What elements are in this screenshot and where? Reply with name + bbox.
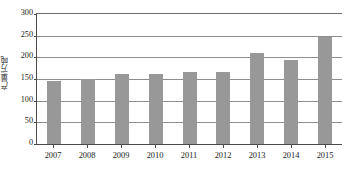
x-tick-slot bbox=[104, 145, 138, 149]
x-axis-tick-labels: 200720082009201020112012201320142015 bbox=[36, 150, 342, 164]
x-tick-label: 2011 bbox=[172, 150, 206, 164]
bar-chart-figure: 产量/万吨 050100150200250300 200720082009201… bbox=[0, 0, 348, 176]
x-tick-slot bbox=[308, 145, 342, 149]
x-tick-slot bbox=[138, 145, 172, 149]
x-tick-mark bbox=[189, 145, 190, 148]
bar-slot bbox=[139, 14, 173, 144]
x-tick-mark bbox=[291, 145, 292, 148]
x-tick-slot bbox=[172, 145, 206, 149]
bar-slot bbox=[308, 14, 342, 144]
x-tick-mark bbox=[121, 145, 122, 148]
bar-series bbox=[37, 14, 342, 144]
x-tick-label: 2013 bbox=[240, 150, 274, 164]
x-tick-mark bbox=[325, 145, 326, 148]
x-tick-slot bbox=[274, 145, 308, 149]
bar-slot bbox=[206, 14, 240, 144]
y-tick-label: 300 bbox=[21, 9, 33, 17]
bar bbox=[115, 74, 129, 144]
bar bbox=[47, 81, 61, 144]
x-tick-label: 2009 bbox=[104, 150, 138, 164]
bar-slot bbox=[173, 14, 207, 144]
y-tick-label: 250 bbox=[21, 31, 33, 39]
y-axis-tick-labels: 050100150200250300 bbox=[10, 0, 33, 176]
x-tick-mark bbox=[53, 145, 54, 148]
x-tick-mark bbox=[155, 145, 156, 148]
bar bbox=[216, 72, 230, 144]
plot-area bbox=[36, 13, 342, 145]
bar bbox=[318, 37, 332, 144]
bar-slot bbox=[240, 14, 274, 144]
x-tick-mark bbox=[87, 145, 88, 148]
bar-slot bbox=[37, 14, 71, 144]
x-tick-slot bbox=[36, 145, 70, 149]
bar bbox=[81, 79, 95, 144]
y-tick-label: 0 bbox=[29, 139, 33, 147]
x-tick-label: 2007 bbox=[36, 150, 70, 164]
x-tick-mark bbox=[223, 145, 224, 148]
bar-slot bbox=[274, 14, 308, 144]
y-tick-label: 150 bbox=[21, 74, 33, 82]
y-tick-label: 50 bbox=[25, 117, 33, 125]
x-tick-label: 2015 bbox=[308, 150, 342, 164]
x-tick-slot bbox=[70, 145, 104, 149]
x-axis-tick-marks bbox=[36, 145, 342, 149]
bar bbox=[284, 60, 298, 145]
x-tick-label: 2010 bbox=[138, 150, 172, 164]
x-tick-label: 2014 bbox=[274, 150, 308, 164]
bar bbox=[149, 74, 163, 144]
bar bbox=[183, 72, 197, 144]
bar-slot bbox=[71, 14, 105, 144]
x-tick-label: 2008 bbox=[70, 150, 104, 164]
x-tick-mark bbox=[257, 145, 258, 148]
y-tick-label: 200 bbox=[21, 52, 33, 60]
x-tick-label: 2012 bbox=[206, 150, 240, 164]
bar bbox=[250, 53, 264, 144]
x-tick-slot bbox=[240, 145, 274, 149]
x-tick-slot bbox=[206, 145, 240, 149]
y-tick-label: 100 bbox=[21, 96, 33, 104]
bar-slot bbox=[105, 14, 139, 144]
